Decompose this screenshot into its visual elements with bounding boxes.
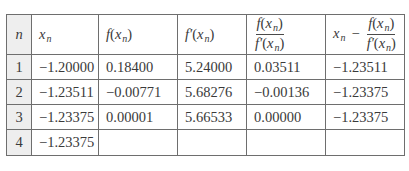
update-num-arg: x <box>377 15 383 31</box>
ratio-num-func: f <box>257 15 261 31</box>
ratio-den-arg: x <box>267 35 273 51</box>
cell-ratio: −0.00136 <box>247 80 326 105</box>
header-fp-arg: x <box>197 26 203 42</box>
ratio-num-arg: x <box>265 15 271 31</box>
cell-ratio <box>247 130 326 156</box>
update-lead: x <box>333 25 339 41</box>
table-row: 1 −1.20000 0.18400 5.24000 0.03511 −1.23… <box>7 55 405 80</box>
header-f-xn: f(xn) <box>99 15 178 55</box>
update-minus: − <box>351 25 359 41</box>
ratio-fraction: f(xn) f′(xn) <box>254 16 285 54</box>
header-xn: xn <box>32 15 99 55</box>
cell-next: −1.23375 <box>326 80 405 105</box>
cell-f: 0.18400 <box>99 55 178 80</box>
header-ratio: f(xn) f′(xn) <box>247 15 326 55</box>
cell-f <box>99 130 178 156</box>
cell-f: 0.00001 <box>99 105 178 130</box>
cell-f: −0.00771 <box>99 80 178 105</box>
ratio-num-sub: n <box>273 22 278 33</box>
update-den-func: f′ <box>367 35 374 51</box>
cell-fp: 5.66533 <box>178 105 247 130</box>
update-den-arg: x <box>379 35 385 51</box>
header-xn-var: x <box>39 26 45 42</box>
header-fp-sub: n <box>204 33 209 44</box>
cell-ratio: 0.00000 <box>247 105 326 130</box>
cell-next: −1.23511 <box>326 55 405 80</box>
update-denominator: f′(xn) <box>366 35 397 54</box>
header-f-sub: n <box>122 33 127 44</box>
header-update: xn− f(xn) f′(xn) <box>326 15 405 55</box>
update-num-func: f <box>368 15 372 31</box>
update-numerator: f(xn) <box>367 16 395 36</box>
cell-next <box>326 130 405 156</box>
cell-n: 2 <box>7 80 32 105</box>
cell-n: 1 <box>7 55 32 80</box>
cell-fp <box>178 130 247 156</box>
cell-ratio: 0.03511 <box>247 55 326 80</box>
ratio-den-sub: n <box>274 42 279 53</box>
header-fprime-xn: f′(xn) <box>178 15 247 55</box>
header-xn-sub: n <box>46 33 51 44</box>
header-row: n xn f(xn) f′(xn) f(xn) f′(xn) xn− f(xn) <box>7 15 405 55</box>
header-f-func: f <box>106 26 110 42</box>
update-fraction: f(xn) f′(xn) <box>366 16 397 54</box>
table-row: 4 −1.23375 <box>7 130 405 156</box>
table-row: 3 −1.23375 0.00001 5.66533 0.00000 −1.23… <box>7 105 405 130</box>
header-n-label: n <box>15 26 22 42</box>
update-num-sub: n <box>385 22 390 33</box>
ratio-den-func: f′ <box>255 35 262 51</box>
cell-xn: −1.23375 <box>32 105 99 130</box>
header-f-arg: x <box>115 26 121 42</box>
cell-xn: −1.23375 <box>32 130 99 156</box>
ratio-numerator: f(xn) <box>256 16 284 36</box>
table-row: 2 −1.23511 −0.00771 5.68276 −0.00136 −1.… <box>7 80 405 105</box>
update-den-sub: n <box>386 42 391 53</box>
header-n: n <box>7 15 32 55</box>
ratio-denominator: f′(xn) <box>254 35 285 54</box>
header-fp-func: f′ <box>185 26 192 42</box>
cell-fp: 5.68276 <box>178 80 247 105</box>
cell-fp: 5.24000 <box>178 55 247 80</box>
update-lead-sub: n <box>340 32 345 43</box>
cell-n: 4 <box>7 130 32 156</box>
cell-xn: −1.20000 <box>32 55 99 80</box>
cell-next: −1.23375 <box>326 105 405 130</box>
newton-method-table: n xn f(xn) f′(xn) f(xn) f′(xn) xn− f(xn) <box>6 14 405 156</box>
cell-n: 3 <box>7 105 32 130</box>
cell-xn: −1.23511 <box>32 80 99 105</box>
